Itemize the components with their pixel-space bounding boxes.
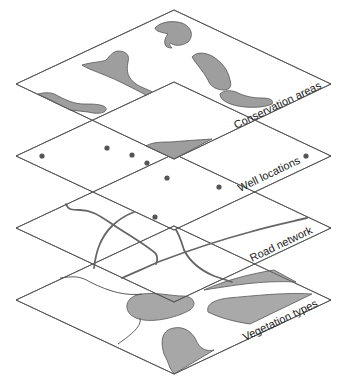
well-point: [144, 160, 149, 165]
well-point: [39, 153, 44, 158]
conservation-area-crescent: [155, 22, 191, 48]
vegetation-patch-right-upper: [204, 270, 296, 290]
gis-layers-diagram: Vegetation types Road network Well locat…: [0, 0, 345, 381]
well-point: [303, 153, 308, 158]
vegetation-boundary-left: [60, 277, 142, 295]
road-segment-2: [94, 212, 134, 268]
well-point: [164, 175, 169, 180]
conservation-area-bottom: [146, 139, 212, 159]
well-point: [104, 145, 109, 150]
road-segment-4: [176, 230, 232, 282]
well-point: [152, 214, 157, 219]
well-point: [216, 184, 221, 189]
conservation-area-right: [192, 53, 231, 90]
vegetation-boundary-left-lower: [118, 318, 140, 344]
conservation-area-t-shape: [82, 51, 152, 95]
well-point: [129, 152, 134, 157]
layer-conservation-areas: Conservation areas: [16, 10, 331, 159]
